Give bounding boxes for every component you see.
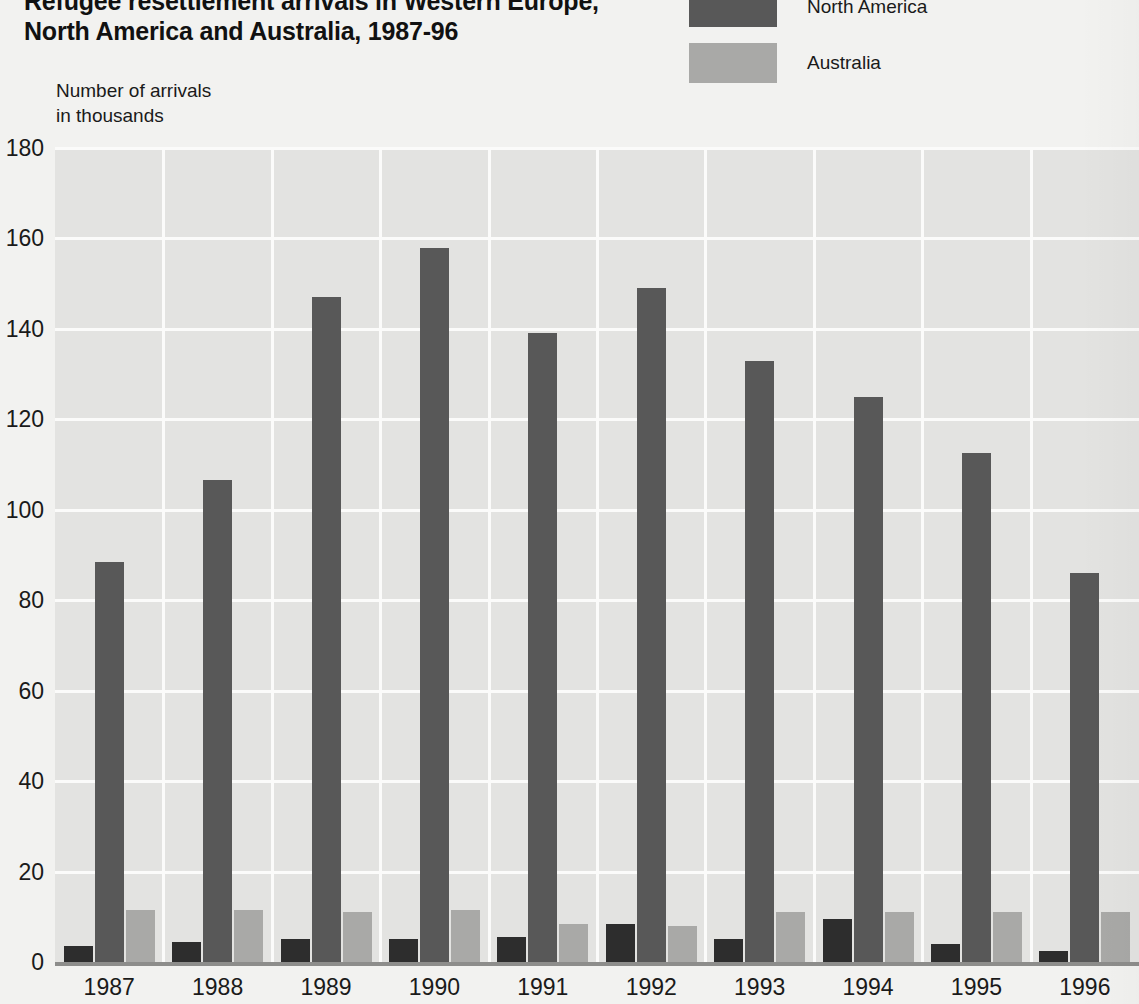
bar[interactable] [497,937,526,962]
x-axis-tick-label: 1990 [380,966,488,1004]
x-axis-tick-label: 1988 [163,966,271,1004]
bar[interactable] [343,912,372,962]
x-axis-tick-label: 1993 [705,966,813,1004]
bar[interactable] [95,562,124,962]
chart-page: Refugee resettlement arrivals in Western… [0,0,1139,1004]
legend-swatch [689,43,777,83]
bar[interactable] [606,924,635,962]
bar[interactable] [637,288,666,962]
bar[interactable] [668,926,697,962]
bar-group [55,148,163,962]
bar-group [272,148,380,962]
bar[interactable] [312,297,341,962]
bar[interactable] [234,910,263,962]
y-axis-caption-line-1: Number of arrivals [56,78,211,103]
y-axis-tick-label: 100 [0,496,44,523]
y-axis-tick-label: 160 [0,225,44,252]
bar[interactable] [993,912,1022,962]
bar-group [814,148,922,962]
bar[interactable] [823,919,852,962]
bar[interactable] [126,910,155,962]
chart-title-line-1: Refugee resettlement arrivals in Western… [24,0,664,16]
chart-title: Refugee resettlement arrivals in Western… [24,0,664,46]
y-axis-tick-label: 20 [0,858,44,885]
y-axis-tick-label: 80 [0,587,44,614]
bar[interactable] [776,912,805,962]
legend-label: Australia [807,52,881,74]
x-axis-tick-label: 1991 [489,966,597,1004]
y-axis-tick-label: 120 [0,406,44,433]
bar[interactable] [885,912,914,962]
y-axis-tick-label: 40 [0,768,44,795]
bar[interactable] [714,939,743,962]
bar[interactable] [1070,573,1099,962]
x-axis-tick-label: 1994 [814,966,922,1004]
legend-swatch [689,0,777,27]
bar[interactable] [451,910,480,962]
bar-group [380,148,488,962]
bar[interactable] [389,939,418,962]
y-axis-caption: Number of arrivals in thousands [56,78,211,128]
x-axis-tick-label: 1987 [55,966,163,1004]
x-axis-tick-labels: 1987198819891990199119921993199419951996 [55,966,1139,1004]
y-axis-caption-line-2: in thousands [56,103,211,128]
chart-title-line-2: North America and Australia, 1987-96 [24,16,664,46]
y-axis-tick-label: 140 [0,315,44,342]
bar[interactable] [1039,951,1068,962]
bar-group [597,148,705,962]
bar[interactable] [559,924,588,962]
legend-item[interactable]: North America [689,0,1019,30]
bar[interactable] [172,942,201,962]
y-axis-tick-label: 180 [0,135,44,162]
bar[interactable] [745,361,774,962]
plot-area [55,148,1139,962]
bar[interactable] [1101,912,1130,962]
x-axis-tick-label: 1996 [1031,966,1139,1004]
bar[interactable] [854,397,883,962]
bar[interactable] [64,946,93,962]
bar-groups [55,148,1139,962]
bar[interactable] [962,453,991,962]
y-axis-tick-label: 0 [0,949,44,976]
legend-label: North America [807,0,927,18]
chart-legend: North AmericaAustralia [689,0,1019,96]
x-axis-tick-label: 1992 [597,966,705,1004]
bar-group [922,148,1030,962]
bar[interactable] [203,480,232,962]
bar-group [705,148,813,962]
bar[interactable] [528,333,557,962]
x-axis-tick-label: 1989 [272,966,380,1004]
bar-group [163,148,271,962]
y-axis-tick-label: 60 [0,677,44,704]
bar[interactable] [420,248,449,963]
bar-group [1031,148,1139,962]
x-axis-tick-label: 1995 [922,966,1030,1004]
bar[interactable] [281,939,310,962]
bar-group [489,148,597,962]
bar[interactable] [931,944,960,962]
legend-item[interactable]: Australia [689,40,1019,86]
